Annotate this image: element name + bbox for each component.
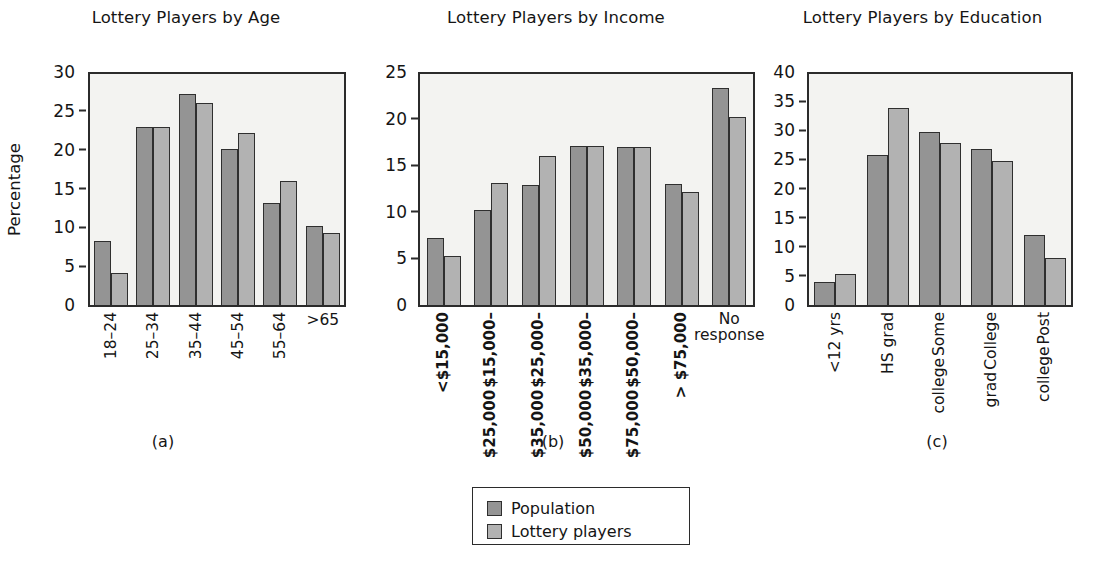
x-tick-label: HS grad — [879, 312, 895, 374]
y-tick-label: 5 — [396, 250, 411, 267]
bar-lot — [238, 133, 255, 305]
bar-lot — [729, 117, 746, 305]
x-tick-cell: HS grad — [861, 312, 913, 412]
panel-income-subcaption: (b) — [518, 432, 588, 451]
bar-group — [861, 74, 913, 305]
bar-group — [259, 74, 301, 305]
bar-lot — [835, 274, 856, 305]
bar-lot — [539, 156, 556, 305]
x-tick-label: 35–44 — [188, 312, 204, 359]
legend-label-population: Population — [511, 499, 595, 518]
bar-pop — [221, 149, 238, 305]
y-tick-label: 30 — [53, 64, 79, 81]
legend: Population Lottery players — [472, 487, 690, 545]
x-tick-label: <$15,000 — [436, 312, 452, 393]
bar-pop — [94, 241, 111, 305]
x-tick-cell: Noresponse — [705, 312, 753, 420]
x-tick-cell: 55–64 — [259, 312, 301, 412]
y-tick-label: 35 — [773, 93, 799, 110]
bar-group — [966, 74, 1018, 305]
x-tick-cell: Collegegrad — [966, 312, 1018, 412]
y-tick-label: 30 — [773, 122, 799, 139]
legend-item-lottery-players: Lottery players — [487, 520, 673, 543]
x-tick-label: > $75,000 — [674, 312, 690, 398]
x-tick-cell: $50,000–$75,000 — [610, 312, 658, 420]
x-tick-label: <12 yrs — [827, 312, 843, 373]
bar-pop — [814, 282, 835, 305]
x-tick-cell: $25,000–$35,000 — [515, 312, 563, 420]
bar-pop — [522, 185, 539, 305]
y-tick-label: 20 — [385, 110, 411, 127]
bar-group — [175, 74, 217, 305]
lottery-players-figure: Lottery Players by Age Percentage 0 5 10… — [0, 0, 1093, 568]
bar-group — [90, 74, 132, 305]
bar-pop — [570, 146, 587, 305]
y-tick-label: 10 — [53, 219, 79, 236]
panel-age: Lottery Players by Age Percentage 0 5 10… — [0, 0, 372, 470]
x-tick-label: 55–64 — [272, 312, 288, 359]
panel-education-plot-area — [807, 72, 1073, 307]
x-tick-cell: 25–34 — [132, 312, 174, 412]
panel-education-y-axis: 0 5 10 15 20 25 30 35 40 — [762, 72, 806, 305]
bar-pop — [474, 210, 491, 305]
x-tick-label: 18–24 — [103, 312, 119, 359]
y-tick-label: 20 — [773, 180, 799, 197]
bar-lot — [153, 127, 170, 305]
panel-education: Lottery Players by Education 0 5 10 15 2… — [752, 0, 1093, 470]
bar-lot — [682, 192, 699, 305]
bar-group — [302, 74, 344, 305]
bar-lot — [280, 181, 297, 305]
bar-pop — [919, 132, 940, 305]
x-tick-label: 45–54 — [230, 312, 246, 359]
bar-lot — [491, 183, 508, 305]
x-tick-cell: <12 yrs — [809, 312, 861, 412]
bar-lot — [634, 147, 651, 305]
x-tick-cell: 18–24 — [90, 312, 132, 412]
bar-lot — [1045, 258, 1066, 305]
y-tick-label: 15 — [773, 209, 799, 226]
bar-pop — [617, 147, 634, 305]
y-tick-label: 0 — [396, 297, 411, 314]
panel-income-bars — [420, 74, 753, 305]
y-tick-label: 10 — [385, 203, 411, 220]
legend-label-lottery-players: Lottery players — [511, 522, 632, 541]
bar-lot — [196, 103, 213, 305]
bar-lot — [888, 108, 909, 305]
bar-group — [563, 74, 611, 305]
y-tick-label: 40 — [773, 64, 799, 81]
y-tick-label: 25 — [385, 64, 411, 81]
y-tick-label: 5 — [64, 258, 79, 275]
y-tick-label: 15 — [385, 157, 411, 174]
legend-item-population: Population — [487, 497, 673, 520]
x-tick-label: 25–34 — [145, 312, 161, 359]
x-tick-cell: $15,000–$25,000 — [468, 312, 516, 420]
x-tick-cell: 35–44 — [175, 312, 217, 412]
x-tick-label: $50,000–$75,000 — [626, 312, 641, 458]
x-tick-label: >65 — [306, 312, 339, 328]
x-tick-label: Somecollege — [932, 312, 948, 414]
x-tick-cell: Postcollege — [1019, 312, 1071, 412]
bar-lot — [323, 233, 340, 305]
bar-pop — [179, 94, 196, 305]
y-tick-label: 25 — [773, 151, 799, 168]
y-tick-label: 0 — [784, 297, 799, 314]
panel-income-title: Lottery Players by Income — [356, 8, 756, 27]
panel-income-y-axis: 0 5 10 15 20 25 — [372, 72, 418, 305]
bar-lot — [111, 273, 128, 305]
panel-age-bars — [90, 74, 344, 305]
bar-pop — [306, 226, 323, 305]
x-tick-cell: <$15,000 — [420, 312, 468, 420]
y-tick-label: 0 — [64, 297, 79, 314]
y-tick-label: 10 — [773, 238, 799, 255]
panel-age-x-axis-labels: 18–2425–3435–4445–5455–64>65 — [90, 312, 344, 412]
bar-group — [809, 74, 861, 305]
panel-age-plot-area — [88, 72, 346, 307]
x-tick-cell: Somecollege — [914, 312, 966, 412]
bar-pop — [712, 88, 729, 305]
legend-swatch-lottery-players-icon — [487, 524, 502, 539]
panel-education-subcaption: (c) — [902, 432, 972, 451]
bar-lot — [992, 161, 1013, 305]
bar-group — [658, 74, 706, 305]
bar-pop — [665, 184, 682, 305]
legend-swatch-population-icon — [487, 501, 502, 516]
